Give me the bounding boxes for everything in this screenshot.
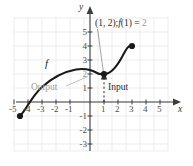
x-axis-label: x <box>178 105 182 115</box>
output-callout-label: Output <box>31 83 57 93</box>
y-tick-label-3: 3 <box>81 56 87 65</box>
y-axis-label: y <box>79 3 83 13</box>
y-tick-label-4: 4 <box>81 42 87 51</box>
annotation-coordinates: (1, 2); <box>95 18 118 28</box>
x-tick-label-4: 4 <box>143 105 148 114</box>
function-graph-figure: -5 -4 -3 -2 -1 1 2 3 4 5 5 4 3 2 1 -1 -2… <box>0 0 193 166</box>
y-axis-arrow <box>87 6 94 14</box>
x-tick-label-5: 5 <box>157 105 162 114</box>
x-tick-label-3: 3 <box>129 105 134 114</box>
x-tick-label--1: -1 <box>65 105 73 114</box>
x-tick-label--2: -2 <box>51 105 59 114</box>
y-tick-label--3: -3 <box>78 140 87 149</box>
y-tick-label--1: -1 <box>78 112 87 121</box>
x-tick-label--4: -4 <box>23 105 31 114</box>
y-tick-label-2: 2 <box>81 70 87 79</box>
point-3-4 <box>129 43 135 49</box>
curve-label-f: f <box>45 58 48 69</box>
annotation-value: 2 <box>142 18 147 28</box>
point-1-2 <box>101 71 107 77</box>
point-annotation: (1, 2);f(1) = 2 <box>95 19 147 29</box>
y-tick-label-5: 5 <box>81 28 87 37</box>
y-tick-label-1: 1 <box>81 84 87 93</box>
x-tick-label-1: 1 <box>101 105 106 114</box>
annotation-argument: (1) = <box>121 18 140 28</box>
x-tick-label--5: -5 <box>9 105 17 114</box>
y-tick-label--2: -2 <box>78 126 87 135</box>
input-callout-label: Input <box>108 83 128 93</box>
x-tick-label-2: 2 <box>115 105 120 114</box>
x-tick-label--3: -3 <box>37 105 45 114</box>
